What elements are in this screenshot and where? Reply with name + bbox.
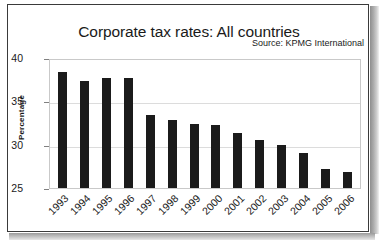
bar-series [50,60,360,188]
bar-slot [118,60,140,188]
page-shadow-right [370,6,379,234]
x-label-slot: 1996 [117,190,139,234]
bar [299,153,308,188]
bar-slot [74,60,96,188]
x-axis-labels: 1993199419951996199719981999200020012002… [49,190,361,234]
plot-area [49,59,361,189]
x-label-slot: 1995 [95,190,117,234]
y-tick-mark [44,146,49,147]
bar [233,133,242,188]
bar [255,140,264,188]
y-tick-label: 40 [0,52,23,64]
x-label-slot: 2005 [315,190,337,234]
x-label-slot: 1994 [73,190,95,234]
x-label-slot: 2002 [249,190,271,234]
bar [124,78,133,188]
source-annotation: Source: KPMG International [252,38,364,48]
x-label-slot: 2000 [205,190,227,234]
figure-frame: Corporate tax rates: All countries Perce… [7,4,369,232]
x-label-slot: 2001 [227,190,249,234]
bar [321,169,330,188]
bar-slot [292,60,314,188]
bar-slot [161,60,183,188]
x-label-slot: 2004 [293,190,315,234]
bar [190,124,199,188]
bar [146,115,155,188]
bar-slot [336,60,358,188]
bar [168,120,177,188]
bar [80,81,89,188]
bar-slot [271,60,293,188]
bar-slot [183,60,205,188]
y-tick-mark [44,102,49,103]
page-shadow-bottom [9,233,375,240]
x-label-slot: 2006 [337,190,359,234]
y-tick-label: 25 [0,182,23,194]
x-label-slot: 1993 [51,190,73,234]
y-tick-label: 30 [0,139,23,151]
bar [58,72,67,188]
x-label-slot: 2003 [271,190,293,234]
bar-slot [139,60,161,188]
bar [277,145,286,188]
bar [343,172,352,188]
bar-slot [52,60,74,188]
y-tick-label: 35 [0,95,23,107]
bar-slot [205,60,227,188]
x-label-slot: 1997 [139,190,161,234]
bar [102,78,111,188]
bar [211,125,220,188]
x-label-slot: 1999 [183,190,205,234]
bar-slot [249,60,271,188]
bar-slot [227,60,249,188]
x-tick-label: 1993 [45,192,70,217]
bar-slot [314,60,336,188]
y-tick-mark [44,189,49,190]
x-label-slot: 1998 [161,190,183,234]
bar-slot [96,60,118,188]
y-tick-mark [44,59,49,60]
